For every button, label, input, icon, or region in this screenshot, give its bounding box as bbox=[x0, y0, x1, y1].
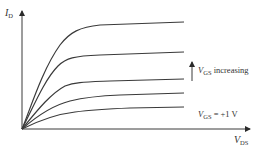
vgs-subscript: GS bbox=[203, 69, 211, 76]
x-axis-subscript: DS bbox=[240, 139, 248, 146]
vgs-increasing-label: VGS increasing bbox=[198, 66, 249, 77]
mosfet-characteristics-diagram: ID VDS VGS increasing VGS = +1 V bbox=[0, 0, 267, 151]
x-axis-label: VDS bbox=[234, 135, 248, 147]
y-axis-subscript: D bbox=[8, 12, 13, 19]
curve-5 bbox=[22, 22, 184, 129]
vgs-value-text: = +1 V bbox=[212, 109, 238, 119]
y-axis-label: ID bbox=[5, 8, 13, 20]
curve-4 bbox=[22, 52, 184, 129]
curve-1 bbox=[22, 107, 184, 129]
increasing-text: increasing bbox=[212, 65, 249, 75]
curve-2 bbox=[22, 93, 184, 129]
vgs-subscript: GS bbox=[203, 113, 211, 120]
vgs-1v-label: VGS = +1 V bbox=[198, 110, 238, 121]
curve-3 bbox=[22, 79, 184, 129]
